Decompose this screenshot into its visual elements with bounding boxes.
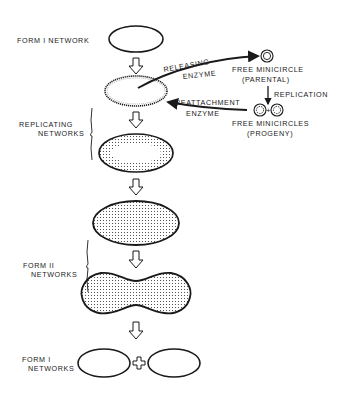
progeny-network-ellipse-left [78, 349, 130, 377]
down-arrow-icon [129, 112, 143, 128]
progeny-network-ellipse-right [148, 349, 200, 377]
label-form1-networks: NETWORKS [28, 364, 74, 373]
diagram-canvas: FORM I NETWORK RELEASING ENZYME FREE MIN… [0, 0, 351, 399]
label-progeny: (PROGENY) [247, 129, 293, 138]
form1-network-ellipse [109, 26, 163, 52]
label-releasing-enzyme: ENZYME [182, 69, 216, 81]
dividing-network-shape [82, 273, 191, 314]
plus-sign: + [266, 106, 271, 115]
label-reattachment: REATTACHMENT [175, 98, 240, 107]
label-form1-network: FORM I NETWORK [17, 36, 89, 45]
down-arrow-icon [129, 179, 143, 195]
periphery-dots [107, 78, 165, 104]
label-replicating: REPLICATING [19, 120, 73, 129]
releasing-network-ellipse [105, 76, 167, 106]
plus-icon [133, 357, 145, 369]
down-arrow-icon [129, 251, 143, 268]
label-form2-networks: NETWORKS [31, 270, 77, 279]
label-reattachment-enzyme: ENZYME [186, 109, 220, 118]
progeny-minicircle-icon [271, 104, 283, 116]
label-free-minicircle: FREE MINICIRCLE [232, 65, 304, 74]
label-form1: FORM I [22, 355, 51, 364]
label-parental: (PARENTAL) [242, 75, 290, 84]
progeny-minicircle-icon [254, 104, 266, 116]
parental-minicircle-icon [261, 50, 273, 62]
label-replication: REPLICATION [274, 90, 328, 99]
down-arrow-icon [129, 58, 143, 74]
down-arrow-icon [129, 322, 143, 339]
label-free-minicircles: FREE MINICIRCLES [232, 119, 309, 128]
form2-network-ellipse [93, 201, 179, 245]
label-replicating-networks: NETWORKS [38, 129, 84, 138]
bracket-replicating [91, 108, 93, 160]
label-form2: FORM II [23, 261, 54, 270]
